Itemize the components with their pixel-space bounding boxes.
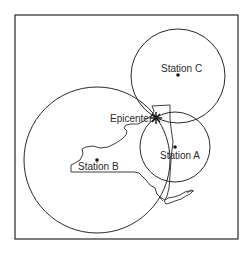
epicenter-label: Epicenter xyxy=(110,113,153,124)
long-island-outline xyxy=(164,191,193,204)
map-frame xyxy=(15,15,238,239)
seismic-epicenter-map: Station C Station A Station B Epicenter xyxy=(0,0,249,259)
station-a-label: Station A xyxy=(160,150,200,161)
station-b-label: Station B xyxy=(78,161,119,172)
station-c-label: Station C xyxy=(161,63,202,74)
station-a-marker xyxy=(173,145,177,149)
